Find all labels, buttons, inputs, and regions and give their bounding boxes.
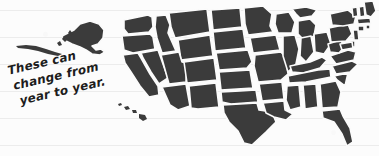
notebook-page: These can change from year to year. [0, 0, 379, 156]
state-south-dakota [213, 29, 246, 51]
state-alabama [303, 84, 318, 109]
state-nebraska [216, 50, 252, 70]
state-wisconsin [275, 12, 295, 33]
state-washington [124, 15, 153, 34]
state-ohio [314, 32, 331, 54]
state-mississippi [286, 85, 301, 110]
state-montana [169, 9, 210, 38]
state-arizona [162, 84, 190, 110]
state-oregon [122, 34, 155, 53]
state-indiana [300, 36, 314, 62]
state-pennsylvania [329, 24, 352, 42]
state-maryland [340, 42, 353, 50]
state-rhode-island [366, 25, 370, 29]
state-connecticut [358, 26, 364, 31]
state-vermont [352, 7, 358, 17]
state-colorado [184, 58, 217, 83]
state-massachusetts [357, 18, 371, 24]
state-oklahoma [221, 90, 258, 104]
state-new-jersey [353, 30, 359, 40]
state-new-mexico [189, 83, 219, 109]
state-arkansas [259, 82, 284, 101]
state-wyoming [178, 35, 213, 60]
state-kansas [219, 70, 253, 90]
state-iowa [250, 35, 280, 53]
state-georgia [320, 81, 341, 108]
state-hawaii [118, 103, 147, 121]
state-florida [322, 109, 353, 146]
state-north-dakota [211, 8, 242, 30]
state-minnesota [244, 6, 273, 35]
state-maine [364, 1, 376, 17]
